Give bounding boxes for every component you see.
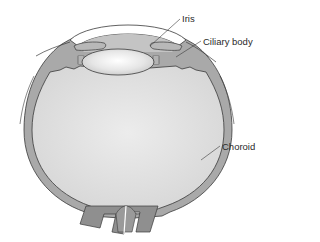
label-ciliary-body: Ciliary body	[203, 37, 253, 47]
label-iris: Iris	[182, 14, 195, 24]
lens	[82, 49, 154, 75]
label-choroid: Choroid	[222, 142, 255, 152]
